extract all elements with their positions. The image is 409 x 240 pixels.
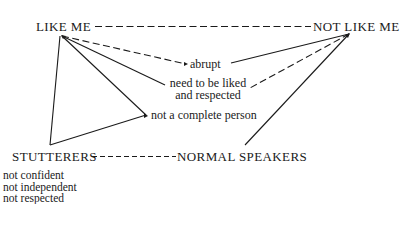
arrowhead-abrupt [184, 62, 188, 66]
node-not-like-me: NOT LIKE ME [313, 20, 399, 33]
arrowhead-not-complete [144, 113, 148, 118]
edge-like-me-stutterers [50, 36, 60, 145]
edge-like-me-need-liked [62, 36, 165, 85]
trait-item: not respected [3, 193, 77, 204]
edge-like-me-abrupt [62, 36, 186, 64]
attribute-abrupt: abrupt [190, 58, 221, 70]
attribute-need-liked: need to be liked and respected [166, 77, 250, 101]
trait-item: not confident [3, 170, 77, 182]
stutterer-traits-list: not confident not independent not respec… [3, 170, 77, 204]
edge-stutterers-not-complete [50, 115, 146, 145]
node-stutterers: STUTTERERS [12, 150, 97, 163]
attribute-need-liked-line2: and respected [166, 89, 250, 101]
attribute-not-complete: not a complete person [151, 109, 257, 121]
edge-not-like-me-abrupt [231, 34, 349, 63]
node-normal-speakers: NORMAL SPEAKERS [177, 150, 307, 163]
edge-not-like-me-normal-speakers [245, 34, 349, 145]
edge-like-me-not-complete [62, 36, 146, 115]
edge-not-like-me-need-liked [250, 34, 349, 88]
node-like-me: LIKE ME [36, 20, 91, 33]
